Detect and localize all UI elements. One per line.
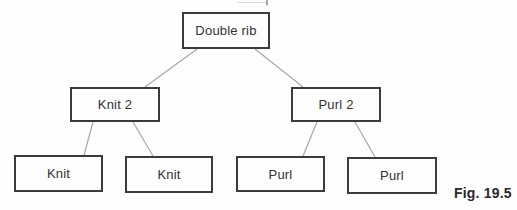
flowchart-canvas: Double rib Knit 2 Purl 2 Knit Knit Purl … bbox=[0, 0, 517, 210]
edge-doublerib-purl2 bbox=[255, 49, 303, 87]
node-knit-2: Knit 2 bbox=[70, 87, 160, 122]
node-double-rib-label: Double rib bbox=[195, 23, 256, 38]
node-purl-left-label: Purl bbox=[269, 167, 293, 182]
node-knit-right: Knit bbox=[125, 156, 213, 193]
node-purl-right: Purl bbox=[347, 157, 437, 194]
figure-caption: Fig. 19.5 bbox=[454, 185, 512, 201]
node-purl-left: Purl bbox=[236, 156, 325, 192]
node-purl-right-label: Purl bbox=[380, 168, 404, 183]
node-knit-left: Knit bbox=[14, 155, 103, 192]
edge-knit2-knita bbox=[84, 122, 93, 155]
edge-purl2-purlb bbox=[355, 122, 375, 157]
edge-purl2-purla bbox=[303, 122, 317, 156]
node-knit-right-label: Knit bbox=[157, 167, 180, 182]
node-purl-2: Purl 2 bbox=[291, 87, 381, 122]
edge-knit2-knitb bbox=[133, 122, 153, 156]
node-double-rib: Double rib bbox=[182, 12, 270, 49]
node-knit-2-label: Knit 2 bbox=[98, 97, 132, 112]
node-purl-2-label: Purl 2 bbox=[318, 97, 353, 112]
edge-doublerib-knit2 bbox=[145, 49, 197, 87]
node-knit-left-label: Knit bbox=[47, 166, 70, 181]
